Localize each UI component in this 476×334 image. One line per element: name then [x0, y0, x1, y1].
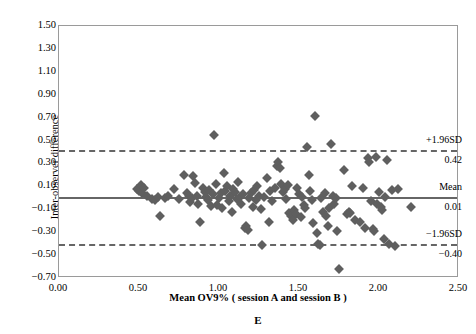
data-point	[347, 181, 357, 191]
data-point	[174, 194, 184, 204]
data-point	[155, 211, 165, 221]
y-tick-label: 0.90	[0, 89, 56, 100]
y-tick-label: −0.10	[0, 203, 56, 214]
y-tick-label: −0.70	[0, 272, 56, 283]
data-point	[339, 165, 349, 175]
y-tick-label: 0.50	[0, 135, 56, 146]
data-point	[406, 202, 416, 212]
data-point	[262, 173, 272, 183]
data-point	[209, 130, 219, 140]
data-point	[332, 226, 342, 236]
plot-area	[59, 26, 457, 276]
data-point	[308, 218, 318, 228]
y-tick-label: 0.30	[0, 157, 56, 168]
data-point	[310, 112, 320, 122]
data-point	[321, 211, 331, 221]
data-point	[358, 183, 368, 193]
y-tick-label: 1.50	[0, 20, 56, 31]
data-point	[312, 228, 322, 238]
bland-altman-figure: Inter-observer difference 1.501.301.100.…	[0, 0, 476, 334]
data-point	[380, 192, 390, 202]
x-axis-title: Mean OV9% ( session A and session B )	[58, 292, 458, 303]
data-point	[326, 139, 336, 149]
data-point	[169, 184, 179, 194]
y-tick-label: −0.50	[0, 249, 56, 260]
data-point	[304, 170, 314, 180]
y-tick-label: 0.10	[0, 180, 56, 191]
data-point	[219, 168, 229, 178]
data-point	[227, 207, 237, 217]
plot-frame	[58, 25, 458, 277]
reference-line-196sd	[59, 150, 457, 152]
data-point	[334, 264, 344, 274]
data-point	[195, 217, 205, 227]
data-point	[305, 186, 315, 196]
y-tick-label: 1.30	[0, 43, 56, 54]
data-point	[264, 217, 274, 227]
y-tick-label: −0.30	[0, 226, 56, 237]
y-tick-label: 1.10	[0, 66, 56, 77]
y-tick-label: 0.70	[0, 112, 56, 123]
data-point	[369, 226, 379, 236]
data-point	[257, 240, 267, 250]
data-point	[281, 194, 291, 204]
data-point	[382, 155, 392, 165]
panel-label: E	[58, 314, 458, 326]
